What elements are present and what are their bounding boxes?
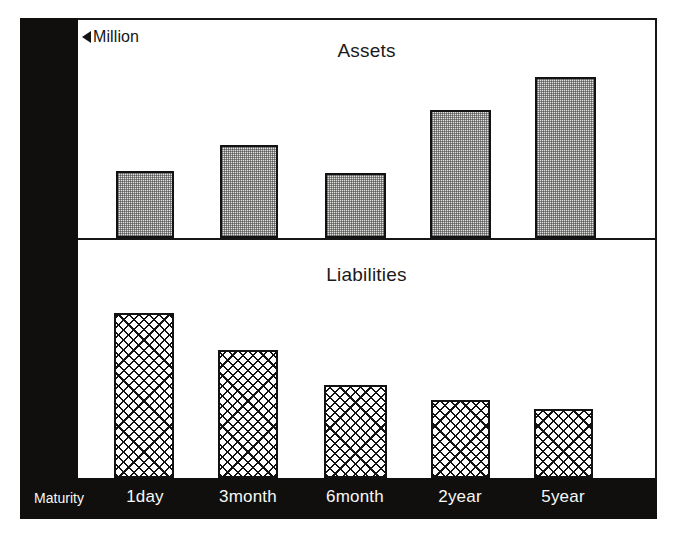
bar-assets-1day xyxy=(116,171,174,238)
bar-assets-3month xyxy=(220,145,278,238)
x-tick-2year: 2year xyxy=(410,487,510,507)
x-tick-6month: 6month xyxy=(305,487,405,507)
bar-liabilities-5year xyxy=(534,409,593,478)
frame-right-border xyxy=(655,18,657,480)
panel-liabilities: Liabilities xyxy=(78,240,655,478)
x-tick-5year: 5year xyxy=(513,487,613,507)
bar-assets-6month xyxy=(325,173,386,238)
bar-liabilities-6month xyxy=(324,385,387,478)
bar-liabilities-3month xyxy=(218,350,278,478)
panel-assets-title: Assets xyxy=(78,40,655,62)
bar-chart-figure: Million Assets Liabilities Maturity 1day… xyxy=(0,0,675,544)
axis-name-maturity: Maturity xyxy=(22,490,96,506)
x-tick-3month: 3month xyxy=(198,487,298,507)
axis-band-left xyxy=(20,18,78,519)
bar-liabilities-2year xyxy=(431,400,490,478)
bar-assets-5year xyxy=(535,77,596,238)
panel-assets: Assets xyxy=(78,18,655,238)
x-tick-1day: 1day xyxy=(95,487,195,507)
bar-assets-2year xyxy=(430,110,491,238)
panel-liabilities-title: Liabilities xyxy=(78,264,655,286)
bar-liabilities-1day xyxy=(114,313,174,478)
